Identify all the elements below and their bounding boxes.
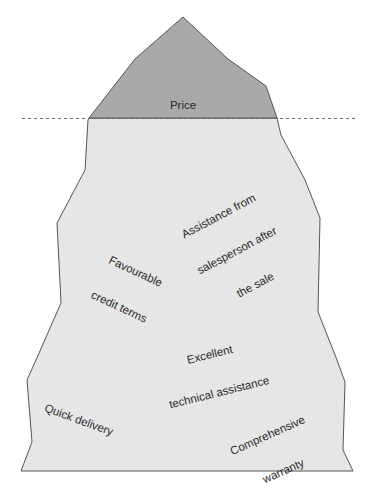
label-price: Price [153,73,213,125]
